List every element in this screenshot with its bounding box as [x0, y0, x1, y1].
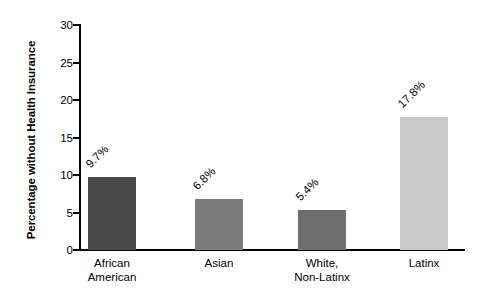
y-axis-tick-mark	[73, 249, 79, 251]
x-axis-category-label: Asian	[169, 256, 269, 270]
y-axis-tick-label: 0	[40, 244, 73, 256]
y-axis-tick-mark	[73, 174, 79, 176]
y-axis-tick-mark	[73, 99, 79, 101]
y-axis-tick-label: 10	[40, 169, 73, 181]
y-axis-tick-labels: 302520151050	[40, 25, 73, 250]
y-axis-tick-mark	[73, 62, 79, 64]
bar	[298, 210, 346, 251]
y-axis-tick-label: 30	[40, 19, 73, 31]
y-axis-title: Percentage without Health Insurance	[22, 15, 40, 265]
y-axis-tick-mark	[73, 137, 79, 139]
x-axis-category-label: White, Non-Latinx	[272, 256, 372, 284]
y-axis-tick-label: 20	[40, 94, 73, 106]
y-axis-tick-mark	[73, 24, 79, 26]
bar	[195, 199, 243, 250]
y-axis-tick-label: 15	[40, 132, 73, 144]
plot-area: 9.7%6.8%5.4%17.8%	[79, 25, 465, 250]
y-axis-tick-label: 25	[40, 57, 73, 69]
bar	[88, 177, 136, 250]
bar-value-label: 6.8%	[191, 165, 218, 192]
x-axis-category-label: African American	[62, 256, 162, 284]
bar-value-label: 17.8%	[396, 78, 428, 110]
y-axis-tick-mark	[73, 212, 79, 214]
bar	[400, 117, 448, 251]
x-axis-category-label: Latinx	[374, 256, 474, 270]
bar-value-label: 5.4%	[294, 175, 321, 202]
bar-chart: Percentage without Health Insurance 3025…	[0, 0, 485, 306]
y-axis-tick-label: 5	[40, 207, 73, 219]
bar-value-label: 9.7%	[84, 143, 111, 170]
